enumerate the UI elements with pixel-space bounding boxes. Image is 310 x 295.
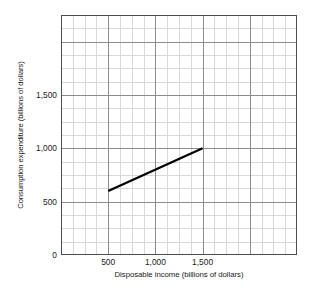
y-axis-tick-labels: 05001,0001,500 <box>14 0 57 295</box>
x-axis-title: Disposable income (billions of dollars) <box>61 270 297 279</box>
plot-area <box>61 15 297 255</box>
x-tick-label-1500: 1,500 <box>173 257 233 267</box>
y-tick-label-1000: 1,000 <box>17 143 57 153</box>
y-tick-label-500: 500 <box>17 197 57 207</box>
y-tick-label-1500: 1,500 <box>17 90 57 100</box>
grid-minor-lines <box>61 15 297 255</box>
plot-svg <box>61 15 297 255</box>
x-axis-tick-labels: 5001,0001,500 <box>0 257 310 271</box>
chart-container: Consumption expenditure (billions of dol… <box>0 0 310 295</box>
